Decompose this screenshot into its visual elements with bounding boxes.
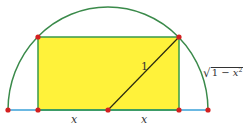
radius-label: 1: [141, 61, 148, 72]
point-right-end: [205, 107, 210, 112]
radicand-prefix: 1 −: [212, 67, 233, 78]
sqrt-symbol: √: [203, 67, 211, 79]
inscribed-rectangle: [38, 37, 179, 110]
point-rect-bottom-right: [176, 107, 181, 112]
point-left-end: [5, 107, 10, 112]
sqrt-radicand: 1 − x2: [211, 67, 244, 78]
radicand-exponent: 2: [238, 66, 242, 73]
right-half-width-label: x: [141, 114, 147, 125]
left-half-width-label: x: [71, 114, 77, 125]
point-rect-top-right: [176, 34, 181, 39]
point-center: [105, 107, 110, 112]
height-label: √ 1 − x2: [203, 67, 243, 79]
point-rect-top-left: [35, 34, 40, 39]
point-rect-bottom-left: [35, 107, 40, 112]
semicircle-rectangle-diagram: 1 √ 1 − x2 x x: [0, 0, 245, 131]
